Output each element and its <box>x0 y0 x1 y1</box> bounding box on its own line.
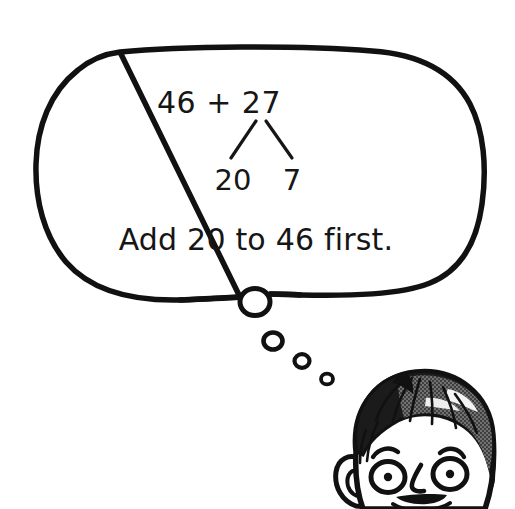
tail-bubble-2 <box>264 333 283 350</box>
left-eye <box>371 462 405 493</box>
illustration-scene: 46 + 27 20 7 Add 20 to 46 first. <box>0 0 515 509</box>
number-bond-left-part: 20 <box>215 163 252 197</box>
right-eye <box>433 459 467 490</box>
equation-text: 46 + 27 <box>157 85 281 120</box>
thought-bubble-bottom-right-segment <box>270 294 300 295</box>
instruction-text: Add 20 to 46 first. <box>119 222 394 257</box>
drawing-layer: 46 + 27 20 7 Add 20 to 46 first. <box>0 0 515 509</box>
boy-character-group <box>336 371 494 509</box>
thought-bubble-bottom-left-segment <box>180 297 241 300</box>
thought-tail-bubbles <box>240 289 333 385</box>
tail-bubble-1 <box>240 289 270 316</box>
right-eye-pupil <box>446 470 454 478</box>
left-eye-pupil <box>384 473 392 481</box>
number-bond-right-part: 7 <box>283 163 301 197</box>
tail-bubble-4 <box>321 374 333 385</box>
thought-bubble-group: 46 + 27 20 7 Add 20 to 46 first. <box>36 47 484 384</box>
tail-bubble-3 <box>295 354 310 368</box>
